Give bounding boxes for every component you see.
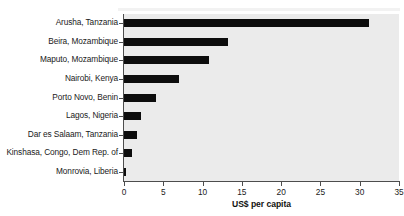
y-axis-tick bbox=[119, 116, 123, 117]
y-axis-label: Porto Novo, Benin bbox=[3, 93, 118, 102]
bar bbox=[124, 131, 137, 139]
x-axis-tick-label: 15 bbox=[230, 187, 254, 197]
x-axis-tick bbox=[163, 182, 164, 186]
x-axis-tick bbox=[203, 182, 204, 186]
bar bbox=[124, 38, 228, 46]
y-axis-tick bbox=[119, 98, 123, 99]
x-axis-tick-label: 5 bbox=[151, 187, 175, 197]
x-axis-tick-label: 0 bbox=[112, 187, 136, 197]
y-axis-label: Maputo, Mozambique bbox=[3, 55, 118, 64]
y-axis-tick bbox=[119, 79, 123, 80]
x-axis-tick bbox=[242, 182, 243, 186]
x-axis-tick-label: 25 bbox=[308, 187, 332, 197]
y-axis-tick bbox=[119, 42, 123, 43]
bar-chart-figure: Arusha, TanzaniaBeira, MozambiqueMaputo,… bbox=[0, 0, 404, 216]
y-axis-tick bbox=[119, 153, 123, 154]
bar bbox=[124, 94, 156, 102]
bars-layer bbox=[124, 14, 399, 181]
x-axis-tick-label: 20 bbox=[269, 187, 293, 197]
y-axis-label: Monrovia, Liberia bbox=[3, 167, 118, 176]
bar bbox=[124, 112, 141, 120]
x-axis-tick-label: 35 bbox=[387, 187, 404, 197]
y-axis-label: Nairobi, Kenya bbox=[3, 74, 118, 83]
y-axis-tick bbox=[119, 135, 123, 136]
y-axis-tick bbox=[119, 172, 123, 173]
x-axis-tick bbox=[399, 182, 400, 186]
bar bbox=[124, 75, 179, 83]
y-axis-label: Lagos, Nigeria bbox=[3, 111, 118, 120]
y-axis-label: Dar es Salaam, Tanzania bbox=[3, 130, 118, 139]
plot-area bbox=[124, 14, 399, 181]
x-axis-tick bbox=[360, 182, 361, 186]
bar bbox=[124, 56, 209, 64]
x-axis-tick bbox=[320, 182, 321, 186]
bar bbox=[124, 168, 126, 176]
x-axis-title: US$ per capita bbox=[124, 199, 399, 209]
y-axis-label: Beira, Mozambique bbox=[3, 37, 118, 46]
x-axis-tick bbox=[124, 182, 125, 186]
x-axis-tick-label: 10 bbox=[191, 187, 215, 197]
y-axis-label: Arusha, Tanzania bbox=[3, 18, 118, 27]
bar bbox=[124, 19, 369, 27]
y-axis-labels: Arusha, TanzaniaBeira, MozambiqueMaputo,… bbox=[0, 14, 118, 181]
y-axis-label: Kinshasa, Congo, Dem Rep. of bbox=[3, 148, 118, 157]
bar bbox=[124, 149, 132, 157]
y-axis-tick bbox=[119, 23, 123, 24]
y-axis-line bbox=[123, 14, 124, 181]
x-axis-tick-label: 30 bbox=[348, 187, 372, 197]
y-axis-tick bbox=[119, 60, 123, 61]
x-axis-tick bbox=[281, 182, 282, 186]
cropped-caption-artifact bbox=[0, 0, 404, 11]
